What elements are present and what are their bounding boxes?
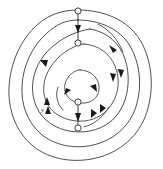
arrow-orbit-inner-left-icon bbox=[45, 106, 51, 114]
arrow-orbit-inner-lower-right-icon bbox=[91, 109, 97, 118]
node-marker-top[interactable] bbox=[75, 8, 81, 14]
arrow-orbit-outer-upper-right-icon bbox=[109, 45, 117, 53]
node-marker-upper-mid[interactable] bbox=[75, 40, 81, 46]
spiral-tail-lower-right bbox=[84, 107, 109, 127]
phase-portrait-figure: x y bbox=[0, 0, 163, 169]
arrow-connector-top-icon bbox=[75, 25, 81, 33]
label-y: y bbox=[40, 106, 45, 114]
node-marker-center[interactable] bbox=[75, 99, 81, 105]
phase-portrait-canvas: x y bbox=[0, 0, 163, 169]
orbit-curve-outermost bbox=[9, 10, 151, 160]
arrow-orbit-innermost-right-icon bbox=[90, 84, 97, 92]
spiral-tail-inner-left bbox=[57, 87, 63, 110]
node-marker-bottom[interactable] bbox=[75, 125, 81, 131]
arrow-orbit-middle-right-icon bbox=[110, 73, 116, 82]
arrow-orbit-outer-upper-left-icon bbox=[40, 60, 48, 67]
